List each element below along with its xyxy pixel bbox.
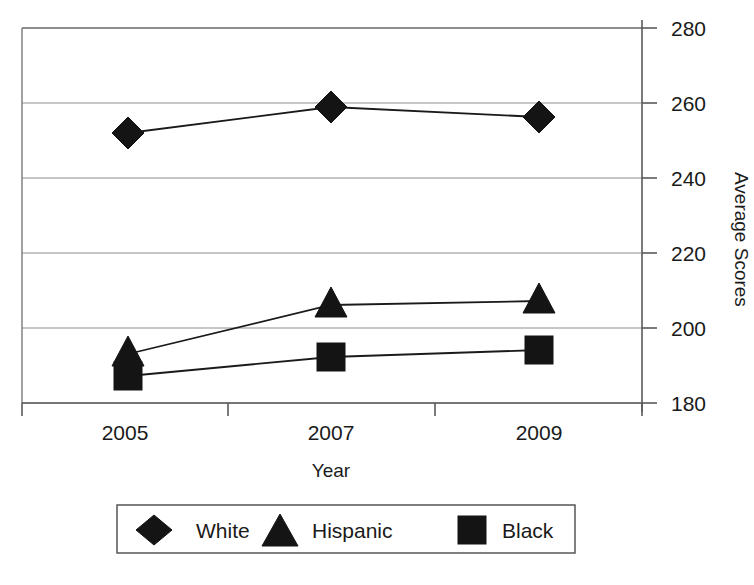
y-axis-title: Average Scores bbox=[731, 172, 752, 307]
y-axis bbox=[642, 20, 657, 412]
x-axis-title: Year bbox=[312, 460, 351, 481]
x-tick-label-2005: 2005 bbox=[102, 421, 149, 444]
data-point-black-2009 bbox=[525, 336, 553, 364]
square-marker-icon bbox=[458, 516, 486, 544]
legend-label-black: Black bbox=[502, 519, 554, 542]
x-tick-labels: 2005 2007 2009 bbox=[102, 421, 563, 444]
chart-canvas: 280 260 240 220 200 180 Average Scores 2… bbox=[0, 0, 754, 585]
y-tick-label-200: 200 bbox=[671, 317, 706, 340]
y-tick-label-180: 180 bbox=[671, 392, 706, 415]
line-chart: 280 260 240 220 200 180 Average Scores 2… bbox=[0, 0, 754, 585]
legend-item-hispanic[interactable]: Hispanic bbox=[262, 514, 393, 546]
y-tick-label-220: 220 bbox=[671, 242, 706, 265]
legend-label-white: White bbox=[196, 519, 250, 542]
legend-label-hispanic: Hispanic bbox=[312, 519, 393, 542]
chart-legend: White Hispanic Black bbox=[117, 505, 575, 553]
x-tick-label-2009: 2009 bbox=[516, 421, 563, 444]
y-tick-label-280: 280 bbox=[671, 17, 706, 40]
y-tick-label-260: 260 bbox=[671, 92, 706, 115]
y-tick-label-240: 240 bbox=[671, 167, 706, 190]
x-axis bbox=[22, 403, 642, 416]
legend-item-black[interactable]: Black bbox=[458, 516, 554, 544]
y-tick-labels: 280 260 240 220 200 180 bbox=[671, 17, 706, 415]
data-point-black-2007 bbox=[317, 343, 345, 371]
x-tick-label-2007: 2007 bbox=[308, 421, 355, 444]
